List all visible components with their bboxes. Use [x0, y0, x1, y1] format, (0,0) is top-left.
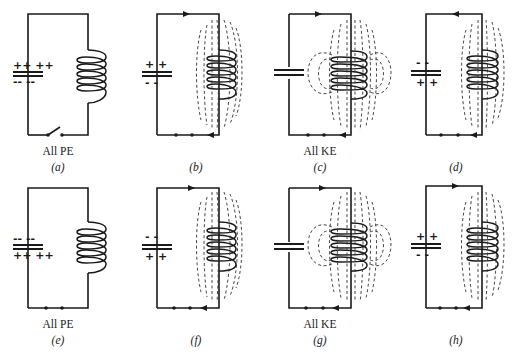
- panel-caption: (f): [191, 334, 202, 347]
- cap-top-charge: - -: [416, 56, 429, 69]
- panel-f: - - + + (f): [142, 185, 242, 347]
- panel-e: -- -- ++ ++ All PE (e): [13, 188, 106, 347]
- cap-top-charge: ++ ++: [13, 59, 54, 72]
- magnetic-field-lines: [308, 20, 391, 130]
- inductor-coil-icon: [77, 50, 106, 103]
- cap-top-charge: + +: [145, 58, 167, 71]
- cap-top-charge: -- --: [13, 232, 35, 245]
- panel-caption: (a): [51, 161, 65, 174]
- panel-h: + + - - (h): [411, 183, 504, 347]
- energy-label: All PE: [43, 145, 74, 157]
- cap-top-charge: + +: [416, 230, 438, 243]
- inductor-coil-icon: [331, 51, 367, 99]
- inductor-coil-icon: [207, 222, 236, 271]
- panel-caption: (d): [449, 161, 463, 174]
- cap-top-charge: - -: [145, 230, 158, 243]
- panel-c: All KE (c): [274, 11, 391, 174]
- panel-b: + + - - (b): [142, 11, 242, 174]
- energy-label: All PE: [43, 318, 74, 330]
- panel-caption: (b): [189, 161, 203, 174]
- panel-caption: (e): [52, 334, 65, 347]
- panel-a: ++ ++ -- -- All PE (a): [13, 14, 106, 174]
- lc-circuit-figure: ++ ++ -- -- All PE (a) + + - - (b): [0, 0, 513, 356]
- inductor-coil-icon: [207, 50, 236, 99]
- energy-label: All KE: [304, 145, 337, 157]
- panel-caption: (g): [313, 334, 327, 347]
- cap-bottom-charge: ++ ++: [13, 249, 54, 262]
- panel-caption: (c): [314, 161, 327, 174]
- cap-bottom-charge: - -: [416, 248, 429, 261]
- inductor-coil-icon: [77, 222, 106, 273]
- inductor-coil-icon: [331, 223, 367, 271]
- cap-bottom-charge: - -: [145, 76, 158, 89]
- panel-g: All KE (g): [274, 185, 391, 347]
- cap-bottom-charge: -- --: [13, 75, 35, 88]
- panel-caption: (h): [449, 334, 463, 347]
- magnetic-field-lines: [308, 192, 391, 302]
- cap-bottom-charge: + +: [416, 76, 438, 89]
- cap-bottom-charge: + +: [145, 250, 167, 263]
- energy-label: All KE: [304, 318, 337, 330]
- panel-d: - - + + (d): [411, 11, 504, 174]
